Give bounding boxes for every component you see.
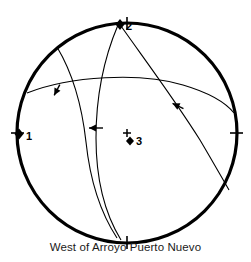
data-point-1-label: 1 <box>26 130 32 142</box>
data-point-3-label: 3 <box>136 135 142 147</box>
plot-background <box>0 0 251 262</box>
stereonet-plot: 1 2 3 <box>0 0 251 262</box>
stereonet-figure: 1 2 3 West of Arroyo Puerto Nuevo <box>0 0 251 262</box>
figure-caption: West of Arroyo Puerto Nuevo <box>0 241 251 253</box>
data-point-2-label: 2 <box>126 20 132 32</box>
